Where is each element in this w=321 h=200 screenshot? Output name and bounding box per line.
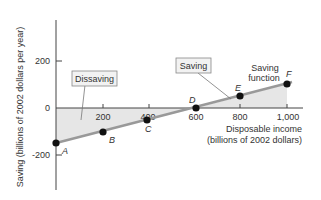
y-tick-200: 200 xyxy=(35,56,50,66)
point-f xyxy=(283,80,290,87)
x-axis-label-1: Disposable income xyxy=(226,124,302,134)
x-tick-800: 800 xyxy=(232,112,247,122)
saving-function-label-2: function xyxy=(248,73,280,83)
point-d xyxy=(192,104,199,111)
point-a xyxy=(52,139,59,146)
x-tick-1000: 1,000 xyxy=(277,112,300,122)
dissaving-label: Dissaving xyxy=(75,74,114,84)
x-tick-600: 600 xyxy=(188,112,203,122)
point-c xyxy=(143,116,150,123)
point-label-f: F xyxy=(286,69,292,79)
saving-function-label-1: Saving xyxy=(251,63,279,73)
y-axis-label: Saving (billions of 2002 dollars per yea… xyxy=(15,27,25,188)
point-label-e: E xyxy=(235,83,242,93)
y-tick-0: 0 xyxy=(45,103,50,113)
x-axis-label-2: (billions of 2002 dollars) xyxy=(207,135,302,145)
point-label-d: D xyxy=(189,95,196,105)
y-tick-neg200: -200 xyxy=(32,150,50,160)
saving-label: Saving xyxy=(180,61,208,71)
point-label-b: B xyxy=(109,135,115,145)
x-tick-200: 200 xyxy=(95,112,110,122)
point-b xyxy=(99,128,106,135)
saving-function-chart: 200 0 -200 200 400 600 800 1,000 Disposa… xyxy=(0,0,321,200)
point-label-a: A xyxy=(61,146,68,156)
point-e xyxy=(236,92,243,99)
point-label-c: C xyxy=(145,124,152,134)
